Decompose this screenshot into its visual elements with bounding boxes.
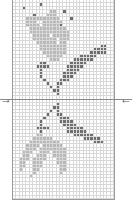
center-arrow-right-icon: → xyxy=(0,93,12,105)
center-arrow-left-icon: ← xyxy=(120,93,132,105)
center-line xyxy=(0,99,132,100)
stitch-chart-grid xyxy=(12,0,115,200)
grid-cell xyxy=(111,196,114,199)
